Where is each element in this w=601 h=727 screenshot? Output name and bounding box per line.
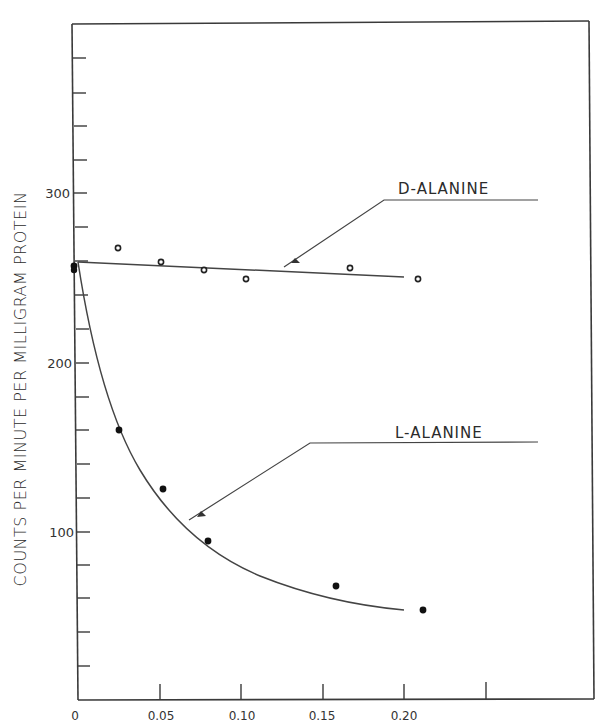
x-tick-label-0.15: 0.15 (309, 709, 336, 723)
right-border (589, 21, 594, 699)
x-ticks (160, 682, 486, 700)
l-alanine-leader (189, 442, 538, 520)
x-tick-label-0: 0 (71, 709, 79, 723)
x-tick-label-0.20: 0.20 (391, 709, 418, 723)
l-alanine-label: L-ALANINE (395, 424, 483, 442)
y-tick-label-300: 300 (45, 186, 70, 201)
top-border (72, 21, 589, 24)
x-tick-label-0.10: 0.10 (229, 709, 256, 723)
y-tick-label-200: 200 (47, 356, 72, 371)
chart-canvas: 300 200 100 0 0.05 0.10 0.15 0.20 (0, 0, 601, 727)
x-axis (78, 699, 594, 700)
d-alanine-fit-line (78, 262, 404, 277)
d-alanine-leader (284, 200, 538, 267)
x-tick-label-0.05: 0.05 (148, 709, 175, 723)
y-tick-label-100: 100 (49, 525, 74, 540)
d-alanine-label: D-ALANINE (398, 180, 489, 198)
d-alanine-arrowhead (291, 258, 300, 263)
l-alanine-fit-curve (78, 262, 404, 610)
